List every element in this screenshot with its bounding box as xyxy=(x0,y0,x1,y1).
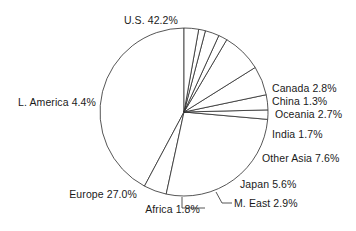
pie-label-europe: Europe 27.0% xyxy=(57,188,137,200)
pie-label-canada: Canada 2.8% xyxy=(272,82,354,94)
m-east-leader-line xyxy=(216,192,232,203)
pie-slice-group xyxy=(100,28,268,196)
pie-label-japan: Japan 5.6% xyxy=(240,178,308,190)
pie-label-oceania: Oceania 2.7% xyxy=(275,108,356,120)
pie-label-l-america: L. America 4.4% xyxy=(2,96,96,108)
pie-label-china: China 1.3% xyxy=(272,95,344,107)
pie-label-m-east: M. East 2.9% xyxy=(234,197,308,209)
pie-label-africa: Africa 1.8% xyxy=(126,203,200,215)
pie-label-india: India 1.7% xyxy=(272,128,336,140)
pie-label-other-asia: Other Asia 7.6% xyxy=(262,152,354,164)
pie-chart: U.S. 42.2% L. America 4.4% Europe 27.0% … xyxy=(0,0,356,231)
pie-label-us: U.S. 42.2% xyxy=(100,14,178,26)
